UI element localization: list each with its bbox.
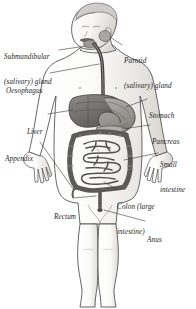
left-leg — [78, 224, 98, 307]
torso-mark — [115, 87, 117, 89]
digestive-system-figure: Submandibular (salivary) gland Parotid (… — [0, 0, 196, 309]
label-small-intestine-line2: intestine — [160, 186, 185, 194]
label-submandibular-line1: Submandibular — [4, 53, 52, 61]
label-liver-line1: Liver — [27, 128, 43, 136]
label-anus: Anus — [147, 219, 162, 261]
label-small-intestine-line1: Small — [160, 161, 185, 169]
label-parotid-line2: (salivary) gland — [124, 82, 172, 90]
label-oesophagus-line1: Oesophagus — [6, 87, 43, 95]
label-oesophagus: Oesophagus — [6, 70, 43, 112]
label-rectum-line1: Rectum — [54, 213, 76, 221]
label-rectum: Rectum — [54, 196, 76, 238]
anus — [98, 208, 103, 212]
label-parotid-line1: Parotid — [124, 57, 172, 65]
label-small-intestine: Small intestine — [160, 144, 185, 211]
torso-mark — [79, 87, 81, 89]
label-appendix-line1: Appendix — [5, 155, 33, 163]
label-anus-line1: Anus — [147, 236, 162, 244]
parotid-gland — [99, 31, 111, 42]
label-stomach-line1: Stomach — [149, 112, 174, 120]
label-colon-line1: Colon (large — [117, 203, 155, 211]
right-leg — [98, 224, 118, 307]
label-appendix: Appendix — [5, 138, 33, 180]
